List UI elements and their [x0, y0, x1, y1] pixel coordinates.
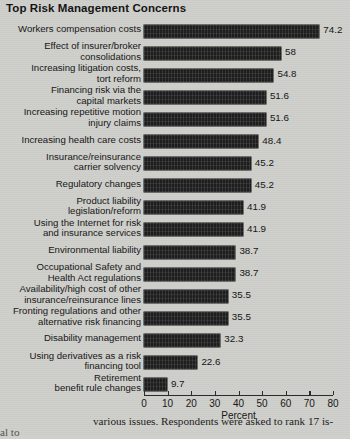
x-axis-tick-label: 70 [304, 398, 315, 409]
bar-value-label: 48.4 [262, 135, 281, 146]
bar-category-label: Using derivatives as a risk financing to… [1, 351, 141, 372]
body-text-fragment: al to [0, 426, 20, 439]
bar [144, 179, 251, 192]
bar [144, 246, 235, 259]
x-axis-tick-label: 20 [186, 398, 197, 409]
x-axis-tick [309, 391, 310, 395]
bar-row: Fronting regulations and other alternati… [0, 308, 350, 330]
bar-category-label: Environmental liability [1, 245, 141, 255]
x-axis-tick-label: 10 [162, 398, 173, 409]
bar-value-label: 74.2 [323, 24, 342, 35]
x-axis-tick [191, 391, 192, 395]
x-axis-tick-label: 0 [141, 398, 147, 409]
x-axis-tick-label: 30 [209, 398, 220, 409]
bar-row: Increasing repetitive motion injury clai… [0, 109, 350, 131]
bar-category-label: Increasing litigation costs, tort reform [1, 63, 141, 84]
bar-category-label: Regulatory changes [1, 179, 141, 189]
bar-value-label: 45.2 [255, 179, 274, 190]
bar-value-label: 35.5 [232, 289, 251, 300]
bar [144, 378, 167, 391]
bar [144, 135, 258, 148]
x-axis-tick [168, 391, 169, 395]
bar-value-label: 9.7 [171, 378, 185, 389]
bar [144, 157, 251, 170]
body-paragraph-text: various issues. Respondents were asked t… [93, 415, 345, 428]
bar [144, 91, 266, 104]
bar-value-label: 32.3 [224, 333, 243, 344]
bar-value-label: 58 [285, 46, 296, 57]
x-axis-tick [239, 391, 240, 395]
bar-category-label: Retirement benefit rule changes [1, 373, 141, 394]
bar [144, 268, 235, 281]
bar-value-label: 51.6 [270, 90, 289, 101]
bar-value-label: 41.9 [247, 223, 266, 234]
bar-row: Regulatory changes45.2 [0, 176, 350, 198]
x-axis-tick [144, 391, 145, 395]
bar-value-label: 45.2 [255, 157, 274, 168]
bar-category-label: Fronting regulations and other alternati… [1, 306, 141, 327]
x-axis-tick [333, 391, 334, 395]
bar-value-label: 38.7 [239, 267, 258, 278]
x-axis [144, 395, 333, 396]
bar-category-label: Occupational Safety and Health Act regul… [1, 262, 141, 283]
bar-value-label: 38.7 [239, 245, 258, 256]
bar [144, 356, 197, 369]
bar-value-label: 22.6 [201, 356, 220, 367]
bar-chart-plot: Workers compensation costs74.2Effect of … [0, 18, 350, 378]
x-axis-tick [262, 391, 263, 395]
bar-category-label: Effect of insurer/broker consolidations [1, 41, 141, 62]
bar-row: Using derivatives as a risk financing to… [0, 353, 350, 375]
bar [144, 312, 228, 325]
bar-value-label: 41.9 [247, 201, 266, 212]
bar-category-label: Product liability legislation/reform [1, 196, 141, 217]
x-axis-tick-label: 60 [280, 398, 291, 409]
bar [144, 290, 228, 303]
bar [144, 47, 281, 60]
bar-value-label: 51.6 [270, 112, 289, 123]
x-axis-tick [215, 391, 216, 395]
bar-category-label: Availability/high cost of other insuranc… [1, 284, 141, 305]
x-axis-tick-label: 50 [257, 398, 268, 409]
bar-category-label: Disability management [1, 333, 141, 343]
bar-row: Using the Internet for risk and insuranc… [0, 220, 350, 242]
bar-category-label: Insurance/reinsurance carrier solvency [1, 152, 141, 173]
bar-category-label: Increasing repetitive motion injury clai… [1, 107, 141, 128]
x-axis-tick-label: 40 [233, 398, 244, 409]
bar-value-label: 35.5 [232, 311, 251, 322]
bar-category-label: Workers compensation costs [1, 24, 141, 34]
bar [144, 113, 266, 126]
bar [144, 223, 243, 236]
bar [144, 25, 319, 38]
bar-row: Retirement benefit rule changes9.7 [0, 375, 350, 397]
x-axis-tick-label: 80 [327, 398, 338, 409]
bar-category-label: Using the Internet for risk and insuranc… [1, 218, 141, 239]
bar-value-label: 54.8 [277, 68, 296, 79]
bar-category-label: Financing risk via the capital markets [1, 85, 141, 106]
x-axis-tick [286, 391, 287, 395]
bar-category-label: Increasing health care costs [1, 135, 141, 145]
bar [144, 334, 220, 347]
bar [144, 69, 273, 82]
chart-title: Top Risk Management Concerns [6, 2, 186, 14]
bar [144, 201, 243, 214]
bar-row: Insurance/reinsurance carrier solvency45… [0, 154, 350, 176]
